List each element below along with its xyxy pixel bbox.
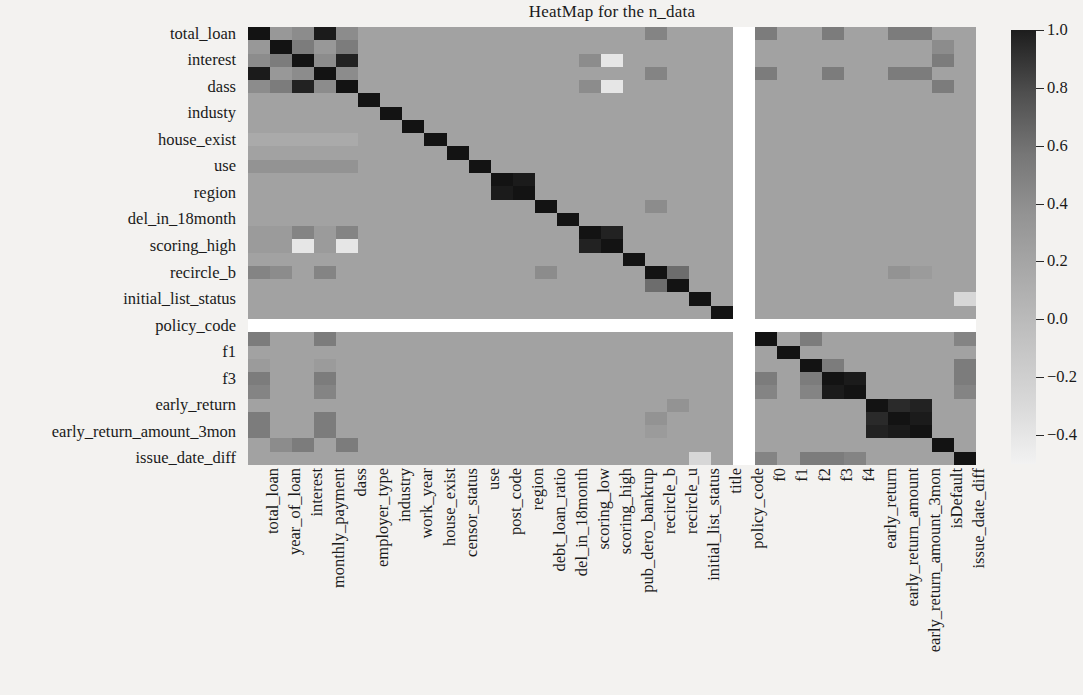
heatmap-cell: [447, 452, 469, 465]
heatmap-cell: [645, 146, 667, 159]
heatmap-cell: [689, 40, 711, 53]
heatmap-cell: [314, 120, 336, 133]
heatmap-cell: [888, 160, 910, 173]
heatmap-cell: [888, 266, 910, 279]
heatmap-cell: [270, 452, 292, 465]
heatmap-cell: [601, 146, 623, 159]
heatmap-cell: [424, 146, 446, 159]
heatmap-cell: [733, 160, 755, 173]
heatmap-cell: [336, 93, 358, 106]
heatmap-cell: [314, 332, 336, 345]
heatmap-cell: [822, 186, 844, 199]
heatmap-cell: [689, 133, 711, 146]
heatmap-cell: [402, 239, 424, 252]
heatmap-cell: [800, 67, 822, 80]
heatmap-figure: HeatMap for the n_data total_loaninteres…: [0, 0, 1083, 695]
heatmap-cell: [402, 399, 424, 412]
heatmap-cell: [579, 346, 601, 359]
heatmap-cell: [601, 279, 623, 292]
heatmap-cell: [270, 27, 292, 40]
heatmap-cell: [270, 160, 292, 173]
heatmap-cell: [447, 372, 469, 385]
heatmap-cell: [292, 146, 314, 159]
heatmap-cell: [248, 93, 270, 106]
heatmap-cell: [402, 213, 424, 226]
heatmap-cell: [910, 399, 932, 412]
heatmap-cell: [866, 399, 888, 412]
heatmap-cell: [689, 213, 711, 226]
heatmap-cell: [755, 173, 777, 186]
heatmap-cell: [402, 359, 424, 372]
heatmap-cell: [932, 332, 954, 345]
heatmap-cell: [579, 146, 601, 159]
heatmap-cell: [623, 67, 645, 80]
heatmap-cell: [601, 173, 623, 186]
heatmap-cell: [932, 120, 954, 133]
heatmap-cell: [292, 173, 314, 186]
heatmap-cell: [888, 213, 910, 226]
heatmap-cell: [733, 412, 755, 425]
heatmap-cell: [755, 359, 777, 372]
heatmap-cell: [557, 412, 579, 425]
heatmap-cell: [491, 67, 513, 80]
heatmap-cell: [424, 27, 446, 40]
heatmap-cell: [822, 332, 844, 345]
heatmap-cell: [513, 146, 535, 159]
heatmap-cell: [358, 226, 380, 239]
heatmap-cell: [358, 93, 380, 106]
heatmap-cell: [358, 452, 380, 465]
heatmap-cell: [557, 332, 579, 345]
colorbar-tick-label: 0.4: [1047, 195, 1068, 212]
heatmap-cell: [513, 107, 535, 120]
heatmap-cell: [711, 93, 733, 106]
heatmap-cell: [800, 359, 822, 372]
x-tick-label: f4: [861, 468, 878, 482]
heatmap-cell: [645, 160, 667, 173]
heatmap-cell: [248, 67, 270, 80]
heatmap-cell: [447, 80, 469, 93]
heatmap-cell: [270, 399, 292, 412]
heatmap-cell: [535, 452, 557, 465]
heatmap-cell: [733, 425, 755, 438]
heatmap-cell: [888, 306, 910, 319]
heatmap-cell: [447, 399, 469, 412]
heatmap-cell: [667, 120, 689, 133]
heatmap-cell: [513, 452, 535, 465]
heatmap-cell: [844, 372, 866, 385]
heatmap-cell: [645, 107, 667, 120]
heatmap-cell: [579, 359, 601, 372]
heatmap-cell: [336, 239, 358, 252]
y-tick-label: initial_list_status: [123, 291, 236, 308]
heatmap-cell: [866, 27, 888, 40]
heatmap-cell: [954, 146, 976, 159]
heatmap-cell: [954, 226, 976, 239]
heatmap-cell: [513, 213, 535, 226]
heatmap-cell: [667, 412, 689, 425]
heatmap-cell: [910, 372, 932, 385]
heatmap-cell: [402, 385, 424, 398]
heatmap-cell: [932, 359, 954, 372]
heatmap-cell: [513, 372, 535, 385]
heatmap-cell: [292, 120, 314, 133]
heatmap-cell: [711, 40, 733, 53]
heatmap-cell: [888, 146, 910, 159]
heatmap-cell: [800, 54, 822, 67]
heatmap-cell: [866, 107, 888, 120]
heatmap-cell: [491, 372, 513, 385]
heatmap-cell: [513, 40, 535, 53]
heatmap-cell: [513, 173, 535, 186]
heatmap-cell: [336, 226, 358, 239]
heatmap-cell: [601, 346, 623, 359]
heatmap-cell: [910, 279, 932, 292]
heatmap-cell: [645, 425, 667, 438]
heatmap-cell: [402, 412, 424, 425]
heatmap-cell: [402, 332, 424, 345]
heatmap-cell: [777, 160, 799, 173]
heatmap-cell: [689, 226, 711, 239]
heatmap-cell: [711, 160, 733, 173]
heatmap-cell: [954, 80, 976, 93]
heatmap-cell: [755, 385, 777, 398]
heatmap-cell: [954, 359, 976, 372]
heatmap-cell: [645, 213, 667, 226]
heatmap-cell: [292, 372, 314, 385]
